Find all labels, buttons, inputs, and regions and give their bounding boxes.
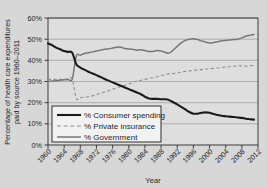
legend: % Consumer spending % Private insurance …	[52, 106, 165, 142]
y-axis-label-line2: paid by source 1960–2011	[12, 40, 21, 124]
chart-figure: 0% 10% 20% 30% 40% 50% 60% 1960196419681…	[0, 0, 267, 188]
legend-label-government: % Government	[84, 133, 138, 142]
health-expenditures-line-chart: 0% 10% 20% 30% 40% 50% 60% 1960196419681…	[0, 0, 267, 188]
y-tick-label-2: 20%	[28, 98, 43, 107]
y-tick-label-6: 60%	[28, 14, 43, 23]
y-tick-label-3: 30%	[28, 77, 43, 86]
y-tick-label-0: 0%	[32, 141, 43, 150]
x-axis-label: Year	[145, 176, 161, 185]
legend-label-consumer-spending: % Consumer spending	[84, 111, 165, 120]
y-axis-label-line1: Percentage of health care expenditures	[3, 19, 12, 145]
legend-label-private-insurance: % Private insurance	[84, 122, 156, 131]
y-tick-label-4: 40%	[28, 56, 43, 65]
y-tick-label-1: 10%	[28, 119, 43, 128]
y-tick-label-5: 50%	[28, 35, 43, 44]
